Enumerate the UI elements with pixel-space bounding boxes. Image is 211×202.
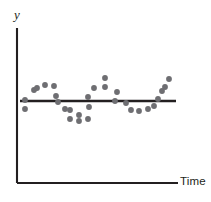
data-point <box>145 106 151 112</box>
x-axis-label: Time <box>180 176 206 188</box>
data-point <box>53 93 59 99</box>
data-point <box>62 106 68 112</box>
data-point <box>67 107 73 113</box>
data-point <box>91 85 97 91</box>
data-point <box>51 83 57 89</box>
data-point <box>76 112 82 118</box>
data-point <box>151 103 157 109</box>
data-point <box>85 116 91 122</box>
y-axis-label: y <box>14 8 20 21</box>
plot-area <box>0 0 211 202</box>
data-point <box>102 75 108 81</box>
data-point <box>22 97 28 103</box>
data-point <box>136 108 142 114</box>
data-point <box>123 100 129 106</box>
data-point <box>34 85 40 91</box>
data-points-group <box>22 75 172 124</box>
data-point <box>128 107 134 113</box>
data-point <box>67 116 73 122</box>
data-point <box>42 82 48 88</box>
data-point <box>76 118 82 124</box>
data-point <box>114 89 120 95</box>
scatter-chart-figure: y Time <box>0 0 211 202</box>
data-point <box>162 84 168 90</box>
data-point <box>112 98 118 104</box>
data-point <box>155 96 161 102</box>
data-point <box>22 106 28 112</box>
data-point <box>166 76 172 82</box>
data-point <box>85 94 91 100</box>
data-point <box>86 104 92 110</box>
data-point <box>102 84 108 90</box>
data-point <box>55 99 61 105</box>
